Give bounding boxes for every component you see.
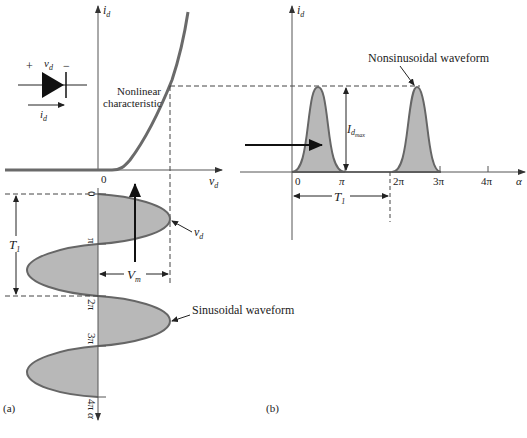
id-axis-label: id [103,3,111,19]
vd-pointer [172,221,192,232]
sinusoid-pointer [172,315,190,321]
b-tick-2pi: 2π [393,175,405,187]
diode-minus: − [63,59,70,73]
b-alpha-label: α [516,175,522,187]
pulse-1-fill [292,87,345,172]
vd-axis-label: vd [209,174,219,190]
nonsinusoid-pointer [400,66,414,85]
nonlinear-label: Nonlinear [117,85,161,97]
characteristic-label: characteristic [103,97,162,109]
diode-plus: + [26,59,33,73]
b-tick-pi: π [339,175,345,187]
vd-sine-label: vd [194,225,204,241]
panel-b-output: 0 π 2π 3π 4π α id Idmax T1 Nonsinusoidal… [240,3,525,415]
b-tick-0: 0 [295,175,301,187]
panel-a-sinusoid: 0 π 2π 3π 4π α T1 Vm vd Sinusoidal wavef… [3,184,295,420]
pulse-2-fill [392,87,441,172]
idmax-label: Idmax [346,122,365,138]
tick-3pi: 3π [86,333,98,345]
diode-id-label: id [40,108,48,123]
b-id-axis-label: id [297,3,305,19]
nonsinusoidal-waveform-label: Nonsinusoidal waveform [368,51,490,65]
tick-4pi: 4π [86,399,98,411]
panel-a-label: (a) [3,402,16,415]
alpha-label: α [86,413,98,419]
tick-pi: π [86,238,98,244]
diode-triangle-icon [42,72,64,98]
tick-2pi: 2π [86,299,98,311]
panel-b-label: (b) [266,402,279,415]
b-tick-4pi: 4π [481,175,493,187]
diode-vd-label: vd [44,57,54,72]
origin-label: 0 [101,173,107,185]
panel-a-characteristic: id vd 0 Nonlinear characteristic [5,3,420,285]
diode-waveform-figure: id vd 0 Nonlinear characteristic + − vd … [0,0,527,438]
sinusoidal-waveform-label: Sinusoidal waveform [192,303,295,317]
b-tick-3pi: 3π [433,175,445,187]
diode-symbol: + − vd id [18,57,87,123]
